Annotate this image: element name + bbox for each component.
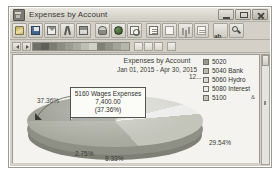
legend-label: 5100 — [212, 94, 226, 101]
palette-option-1[interactable] — [134, 42, 143, 51]
find-button[interactable] — [127, 23, 142, 38]
window-title: Expenses by Account — [29, 10, 107, 19]
callout-leader-line — [33, 95, 75, 121]
data-point-callout[interactable]: 5160 Wages Expenses 7,400.00 (37.36%) — [70, 87, 146, 118]
slice-label-bottom-right: 8.33% — [105, 155, 123, 162]
legend-label: 5080 Interest — [212, 85, 250, 92]
palette-swatch-4[interactable] — [57, 43, 65, 50]
chart-title: Expenses by Account — [105, 57, 209, 65]
main-toolbar: ab — [10, 22, 270, 40]
zoom-button[interactable] — [229, 23, 244, 38]
callout-percent: (37.36%) — [71, 106, 145, 114]
minimize-button[interactable] — [218, 9, 234, 20]
palette-swatch-10[interactable] — [105, 43, 113, 50]
maximize-button[interactable] — [235, 9, 251, 20]
palette-swatch-11[interactable] — [113, 43, 121, 50]
palette-option-3[interactable] — [154, 42, 163, 51]
palette-toolbar — [10, 40, 270, 53]
email-button[interactable] — [44, 23, 59, 38]
color-palette-strip[interactable] — [32, 42, 130, 51]
window-controls — [218, 9, 268, 20]
legend-label: 5060 Hydro — [212, 76, 246, 83]
text-ab-button[interactable]: ab — [213, 23, 228, 38]
callout-amount: 7,400.00 — [71, 98, 145, 106]
legend-overflow-marker: & — [251, 94, 255, 100]
palette-option-2[interactable] — [144, 42, 153, 51]
palette-swatch-7[interactable] — [81, 43, 89, 50]
chart-title-block: Expenses by Account Jan 01, 2015 - Apr 3… — [105, 57, 209, 74]
save-button[interactable] — [28, 23, 43, 38]
open-button[interactable] — [12, 23, 27, 38]
slice-label-bottom-left: 2.75% — [75, 150, 93, 157]
print-button[interactable] — [76, 23, 91, 38]
legend-label: 5040 Bank — [212, 67, 243, 74]
slice-label-right: 29.54% — [209, 139, 231, 146]
legend-label: 5020 — [212, 58, 226, 65]
text-ab-label: ab — [214, 32, 221, 40]
report-window: Expenses by Account ab — [8, 6, 272, 168]
palette-swatch-3[interactable] — [49, 43, 57, 50]
palette-swatch-6[interactable] — [73, 43, 81, 50]
cut-button[interactable] — [60, 23, 75, 38]
chart-value-stub: 12... — [189, 73, 202, 80]
globe-button[interactable] — [111, 23, 126, 38]
palette-swatch-9[interactable] — [97, 43, 105, 50]
palette-swatch-8[interactable] — [89, 43, 97, 50]
scrollbar-thumb[interactable] — [262, 55, 269, 66]
scrollbar-mark — [264, 101, 266, 105]
columns-button[interactable] — [178, 23, 193, 38]
legend-swatch — [203, 59, 209, 65]
legend-item-5020[interactable]: 5020 — [203, 57, 257, 66]
scroll-right-button[interactable] — [22, 42, 31, 51]
chart-legend: 5020 5040 Bank 5060 Hydro 5080 Interest … — [203, 56, 257, 102]
palette-swatch-12[interactable] — [121, 43, 129, 50]
horizontal-scroll-track[interactable] — [12, 163, 260, 166]
palette-swatch-5[interactable] — [65, 43, 73, 50]
legend-item-5100[interactable]: 5100 — [203, 93, 257, 102]
report-button[interactable] — [146, 23, 161, 38]
grid-button[interactable] — [194, 23, 209, 38]
report-window-icon — [13, 9, 25, 21]
palette-option-4[interactable] — [167, 42, 176, 51]
title-bar[interactable]: Expenses by Account — [10, 8, 270, 22]
print-preview-button[interactable] — [95, 23, 110, 38]
legend-item-5040-bank[interactable]: 5040 Bank — [203, 66, 257, 75]
close-button[interactable] — [252, 9, 268, 20]
callout-account: 5160 Wages Expenses — [71, 90, 145, 98]
vertical-scrollbar[interactable] — [261, 54, 270, 165]
chart-canvas[interactable]: Expenses by Account Jan 01, 2015 - Apr 3… — [12, 54, 260, 165]
scroll-left-button[interactable] — [12, 42, 21, 51]
legend-swatch — [203, 68, 209, 74]
palette-swatch-2[interactable] — [41, 43, 49, 50]
legend-item-5080-interest[interactable]: 5080 Interest — [203, 84, 257, 93]
legend-item-5060-hydro[interactable]: 5060 Hydro — [203, 75, 257, 84]
palette-swatch-1[interactable] — [33, 43, 41, 50]
report-detail-button[interactable] — [162, 23, 177, 38]
